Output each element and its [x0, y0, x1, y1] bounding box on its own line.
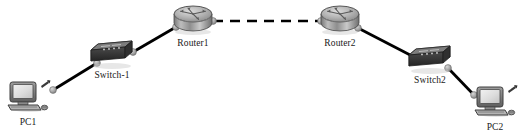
node-label-router2: Router2 [324, 39, 355, 49]
router-icon [170, 3, 216, 41]
switch-icon [88, 40, 136, 74]
node-label-switch2: Switch2 [414, 76, 446, 86]
network-topology-diagram: PC1 Switch-1 [0, 0, 525, 138]
node-label-pc1: PC1 [20, 118, 37, 128]
router-icon [317, 3, 363, 41]
node-label-router1: Router1 [177, 39, 208, 49]
desktop-computer-icon [5, 79, 51, 117]
node-label-switch1: Switch-1 [94, 71, 129, 81]
desktop-computer-icon [472, 84, 518, 122]
node-label-pc2: PC2 [487, 123, 504, 133]
switch-icon [406, 45, 454, 79]
